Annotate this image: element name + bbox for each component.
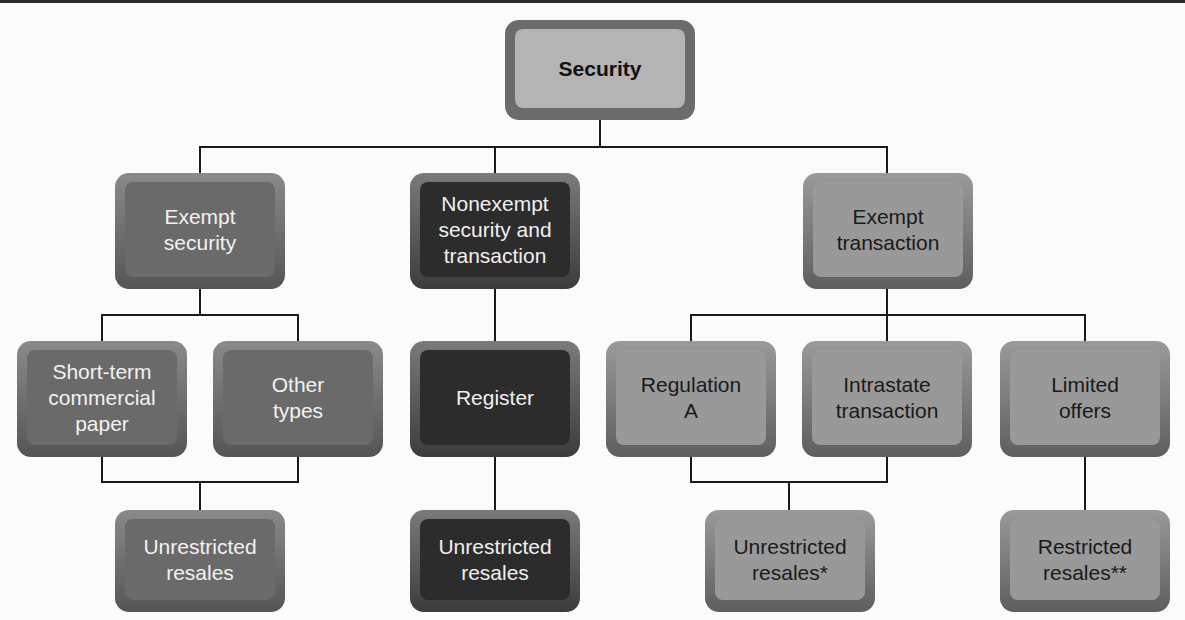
node-label: Nonexempt security and transaction <box>420 182 570 277</box>
node-nonexempt-security-transaction: Nonexempt security and transaction <box>410 173 580 289</box>
node-intrastate-transaction: Intrastate transaction <box>802 341 972 457</box>
node-label: Intrastate transaction <box>812 350 962 445</box>
node-restricted-resales: Restricted resales** <box>1000 510 1170 612</box>
node-unrestricted-resales-exempt-security: Unrestricted resales <box>115 510 285 612</box>
node-label: Other types <box>223 350 373 445</box>
node-label: Unrestricted resales <box>420 519 570 600</box>
top-rule <box>0 0 1185 3</box>
node-other-types: Other types <box>213 341 383 457</box>
node-register: Register <box>410 341 580 457</box>
node-label: Exempt security <box>125 182 275 277</box>
node-exempt-transaction: Exempt transaction <box>803 173 973 289</box>
node-label: Unrestricted resales* <box>715 519 865 600</box>
node-label: Short-term commercial paper <box>27 350 177 445</box>
node-label: Restricted resales** <box>1010 519 1160 600</box>
node-label: Register <box>420 350 570 445</box>
node-unrestricted-resales-exempt-transaction: Unrestricted resales* <box>705 510 875 612</box>
node-regulation-a: Regulation A <box>606 341 776 457</box>
node-limited-offers: Limited offers <box>1000 341 1170 457</box>
node-exempt-security: Exempt security <box>115 173 285 289</box>
node-short-term-commercial-paper: Short-term commercial paper <box>17 341 187 457</box>
node-label: Limited offers <box>1010 350 1160 445</box>
node-label: Unrestricted resales <box>125 519 275 600</box>
node-label: Regulation A <box>616 350 766 445</box>
node-unrestricted-resales-nonexempt: Unrestricted resales <box>410 510 580 612</box>
node-label: Exempt transaction <box>813 182 963 277</box>
node-label: Security <box>515 29 685 108</box>
node-security: Security <box>505 20 695 120</box>
